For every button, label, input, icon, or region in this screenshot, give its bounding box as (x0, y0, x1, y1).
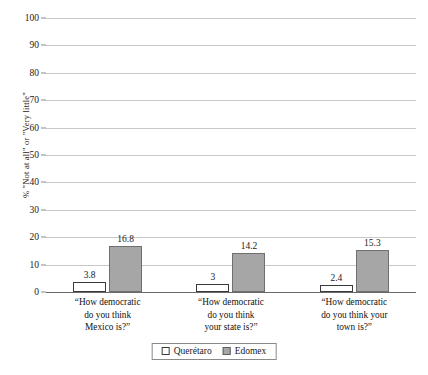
open-square-swatch (162, 347, 170, 355)
axis-baseline (46, 292, 416, 293)
category-label: “How democraticdo you think yourtown is?… (293, 296, 416, 334)
category-axis-labels: “How democraticdo you thinkMexico is?”“H… (46, 296, 416, 340)
bar-value-label: 14.2 (241, 241, 258, 251)
category-label-line: do you think (169, 309, 292, 322)
bar-edomex[interactable] (356, 250, 389, 292)
legend-item-label: Edomex (235, 346, 267, 356)
legend-item-label: Querétaro (174, 346, 212, 356)
category-label: “How democraticdo you thinkyour state is… (169, 296, 292, 334)
y-axis-tick-label: 90 (30, 40, 40, 50)
chart-legend: QuerétaroEdomex (152, 343, 277, 360)
bar-group: 2.415.3 (293, 18, 416, 292)
y-axis-tick-label: 30 (30, 205, 40, 215)
category-label: “How democraticdo you thinkMexico is?” (46, 296, 169, 334)
bar-edomex[interactable] (109, 246, 142, 292)
bar-group: 314.2 (169, 18, 292, 292)
bar-groups: 3.816.8314.22.415.3 (46, 18, 416, 292)
bar-value-label: 2.4 (330, 273, 342, 283)
bar-queretaro[interactable] (320, 285, 353, 292)
y-axis-tick-label: 80 (30, 68, 40, 78)
bar-queretaro[interactable] (73, 282, 106, 292)
category-label-line: Mexico is?” (46, 321, 169, 334)
y-axis-tick-label: 0 (34, 287, 39, 297)
bar-chart: % "Not at all" or "Very little" 01020304… (0, 0, 428, 375)
bar-value-label: 16.8 (117, 234, 134, 244)
y-axis-tick-label: 70 (30, 95, 40, 105)
category-label-line: “How democratic (46, 296, 169, 309)
legend-item[interactable]: Querétaro (162, 346, 212, 356)
bar-value-label: 15.3 (364, 238, 381, 248)
bar-value-label: 3.8 (84, 270, 96, 280)
plot-area: 0102030405060708090100 3.816.8314.22.415… (46, 18, 416, 292)
category-label-line: your state is?” (169, 321, 292, 334)
y-axis-tick-label: 100 (25, 13, 39, 23)
category-label-line: do you think your (293, 309, 416, 322)
bar-edomex[interactable] (232, 253, 265, 292)
bar-group: 3.816.8 (46, 18, 169, 292)
category-label-line: “How democratic (169, 296, 292, 309)
category-label-line: do you think (46, 309, 169, 322)
y-axis-tick-label: 50 (30, 150, 40, 160)
legend-item[interactable]: Edomex (223, 346, 267, 356)
y-axis-tick-label: 10 (30, 260, 40, 270)
category-label-line: town is?” (293, 321, 416, 334)
category-label-line: “How democratic (293, 296, 416, 309)
bar-value-label: 3 (211, 272, 216, 282)
y-axis-tick-label: 40 (30, 177, 40, 187)
bar-queretaro[interactable] (196, 284, 229, 292)
y-axis-tick-label: 60 (30, 123, 40, 133)
y-axis-tick-label: 20 (30, 232, 40, 242)
filled-square-swatch (223, 347, 231, 355)
